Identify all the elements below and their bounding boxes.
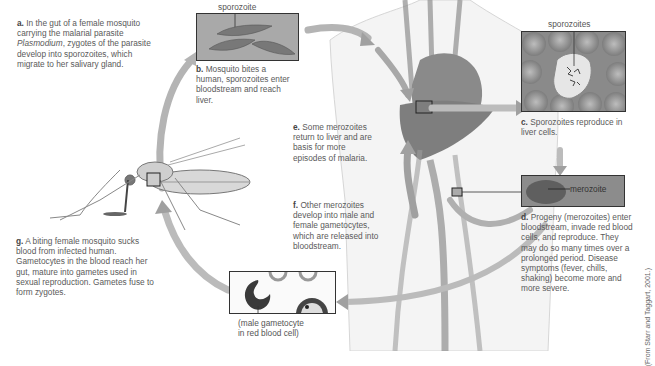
caption-g-text: A biting female mosquito sucks blood fro…: [16, 236, 154, 297]
caption-c-text: Sporozoites reproduce in liver cells.: [521, 117, 622, 137]
caption-b: b. Mosquito bites a human, sporozoites e…: [196, 64, 296, 105]
caption-e-letter: e.: [293, 122, 300, 132]
caption-f: f. Other merozoites develop into male an…: [293, 200, 388, 251]
panel-sporozoite: [196, 13, 299, 61]
panel-merozoite: merozoite: [521, 175, 625, 207]
caption-d: d. Progeny (merozoites) enter bloodstrea…: [521, 212, 633, 294]
mosquito-illustration: [50, 138, 250, 230]
caption-a-letter: a.: [17, 18, 24, 28]
label-merozoite: merozoite: [570, 184, 606, 194]
caption-c: c. Sporozoites reproduce in liver cells.: [521, 117, 631, 137]
caption-g: g. A biting female mosquito sucks blood …: [16, 236, 156, 297]
caption-d-letter: d.: [521, 212, 528, 222]
label-gametocyte: (male gametocyte in red blood cell): [238, 318, 304, 338]
label-sporozoites: sporozoites: [548, 19, 590, 29]
label-gametocyte-line2: in red blood cell): [238, 328, 304, 338]
caption-a-italic: Plasmodium: [17, 38, 63, 48]
caption-c-letter: c.: [521, 117, 528, 127]
label-gametocyte-line1: (male gametocyte: [238, 318, 304, 328]
caption-b-text: Mosquito bites a human, sporozoites ente…: [196, 64, 290, 105]
panel-gametocyte: [229, 271, 336, 314]
caption-e: e. Some merozoites return to liver and a…: [293, 122, 381, 163]
source-credit: (From Starr and Taggart, 2001.): [644, 268, 651, 366]
caption-a: a. In the gut of a female mosquito carry…: [17, 18, 152, 69]
label-sporozoite: sporozoite: [218, 2, 256, 12]
caption-f-letter: f.: [293, 200, 298, 210]
caption-f-text: Other merozoites develop into male and f…: [293, 200, 378, 251]
caption-b-letter: b.: [196, 64, 203, 74]
caption-e-text: Some merozoites return to liver and are …: [293, 122, 372, 163]
panel-liver-cells: [521, 31, 626, 112]
caption-d-text: Progeny (merozoites) enter bloodstream, …: [521, 212, 633, 293]
caption-a-text-1: In the gut of a female mosquito carrying…: [17, 18, 140, 38]
caption-g-letter: g.: [16, 236, 23, 246]
